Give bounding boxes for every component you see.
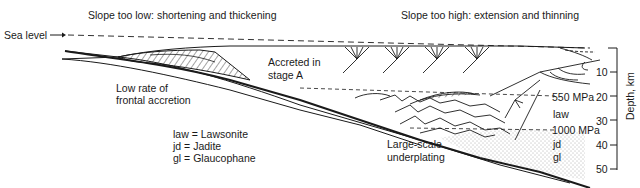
accretionary-wedge-diagram [0,0,640,188]
underplated-layers [355,92,510,137]
depth-tick-10: 10 [596,66,608,78]
underplating-label-line1: Large-scale [387,138,442,150]
jd-zone-label: jd [553,138,561,150]
depth-tick-40: 40 [596,139,608,151]
low-rate-label-line1: Low rate of [116,82,168,94]
sea-level-label: Sea level [4,29,47,41]
accreted-label-line2: stage A [268,69,303,81]
depth-axis-title: Depth, km [624,72,636,120]
low-rate-label-line2: frontal accretion [116,94,191,106]
title-slope-too-high: Slope too high: extension and thinning [401,9,579,21]
gl-zone-label: gl [553,151,561,163]
pressure-1000-label: 1000 MPa [552,124,600,136]
underplating-label-line2: underplating [387,151,445,163]
title-slope-too-low: Slope too low: shortening and thickening [88,9,277,21]
frontal-accretion-wedge [118,50,250,80]
decollement-line [62,57,570,183]
pressure-550-label: 550 MPa [552,91,594,103]
high-pressure-zone [440,129,585,180]
depth-tick-30: 30 [596,115,608,127]
law-zone-label: law [553,108,569,120]
accreted-label-line1: Accreted in [268,56,321,68]
depth-tick-20: 20 [596,91,608,103]
legend-item-glaucophane: gl = Glaucophane [173,152,256,164]
depth-tick-50: 50 [596,163,608,175]
legend-item-jadite: jd = Jadite [173,140,221,152]
depth-axis [608,48,617,170]
legend-item-lawsonite: law = Lawsonite [173,128,248,140]
normal-faults [343,47,489,73]
isobar-550 [300,88,555,96]
